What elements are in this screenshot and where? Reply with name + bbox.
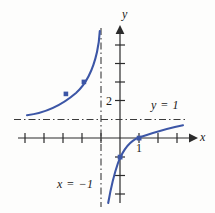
point-x-intercept-marker: [137, 136, 142, 141]
point-origin-branch-marker: [118, 155, 123, 160]
asymptotes-group: [14, 28, 185, 207]
x-axis-arrow-icon: [189, 134, 198, 143]
vertical-asymptote-label: x = −1: [57, 178, 94, 190]
horizontal-asymptote-label: y = 1: [151, 99, 179, 111]
left-branch-curve: [27, 31, 100, 115]
x-tick-label-1: 1: [136, 142, 142, 154]
function-graph-figure: y x 2 1 y = 1 x = −1: [0, 0, 215, 213]
point-left-b-marker: [82, 80, 87, 85]
axes-group: [18, 25, 198, 203]
y-axis-arrow-icon: [116, 25, 125, 34]
point-left-a-marker: [64, 92, 69, 97]
y-axis-label: y: [122, 8, 127, 20]
x-axis-label: x: [200, 131, 205, 143]
curve-group: [27, 31, 183, 203]
y-tick-label-2: 2: [106, 95, 112, 107]
